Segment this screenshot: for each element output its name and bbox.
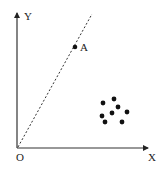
cluster-point	[116, 105, 121, 110]
cluster-point	[101, 101, 106, 106]
point-a-label: A	[80, 41, 88, 53]
x-axis-label: X	[148, 151, 156, 163]
origin-label: O	[16, 151, 24, 163]
cluster-point	[100, 114, 105, 119]
cluster-point	[103, 120, 108, 125]
cluster-point	[110, 111, 115, 116]
point-cluster	[100, 97, 130, 125]
cluster-point	[125, 110, 130, 115]
point-a	[73, 45, 78, 50]
y-axis-label: Y	[24, 10, 32, 22]
scatter-diagram: Y X O A	[0, 0, 166, 174]
dashed-projection-line	[18, 14, 92, 147]
cluster-point	[112, 97, 117, 102]
cluster-point	[120, 120, 125, 125]
